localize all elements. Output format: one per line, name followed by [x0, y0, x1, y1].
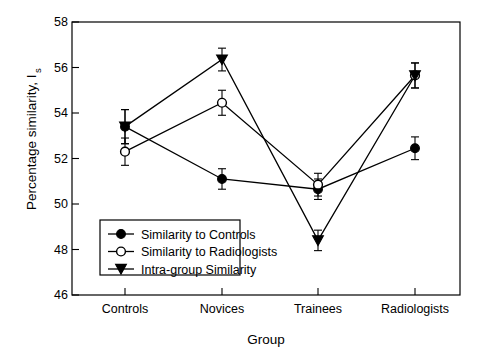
x-axis-title: Group: [247, 332, 285, 347]
y-tick-label: 58: [54, 15, 68, 29]
data-point-open-circle-1-2: [314, 180, 323, 189]
data-point-triangle-2-2: [313, 236, 324, 246]
x-tick-label-trainees: Trainees: [294, 302, 342, 316]
y-axis-title-subscript: s: [32, 68, 43, 73]
x-tick-labels: Controls Novices Trainees Radiologists: [102, 302, 449, 316]
chart-figure: Percentage similarity, I s 58 56 54 52 5…: [0, 0, 482, 360]
data-point-open-circle-1-1: [218, 98, 227, 107]
legend-label-similarity-to-controls: Similarity to Controls: [141, 228, 256, 242]
line-chart-svg: Percentage similarity, I s 58 56 54 52 5…: [0, 0, 482, 360]
x-tick-marks: [125, 288, 415, 295]
series-line-0: [125, 127, 415, 190]
data-point-open-circle-legend-1: [117, 247, 126, 256]
data-point-filled-circle-legend-0: [117, 230, 126, 239]
y-tick-marks: [72, 22, 79, 295]
y-axis-title: Percentage similarity, I s: [24, 68, 43, 210]
y-tick-label: 46: [54, 288, 68, 302]
y-tick-label: 54: [54, 106, 68, 120]
x-tick-label-novices: Novices: [200, 302, 244, 316]
y-axis-title-text: Percentage similarity, I: [24, 74, 39, 210]
y-tick-label: 52: [54, 152, 68, 166]
legend: Similarity to Controls Similarity to Rad…: [100, 220, 277, 277]
y-tick-label: 50: [54, 197, 68, 211]
x-tick-label-radiologists: Radiologists: [381, 302, 449, 316]
data-point-triangle-2-1: [217, 55, 228, 65]
y-tick-label: 56: [54, 61, 68, 75]
y-tick-labels: 58 56 54 52 50 48 46: [54, 15, 68, 302]
legend-label-intra-group-similarity: Intra-group Similarity: [141, 263, 257, 277]
x-tick-label-controls: Controls: [102, 302, 149, 316]
data-point-filled-circle-0-3: [411, 144, 420, 153]
y-tick-label: 48: [54, 243, 68, 257]
series-line-1: [125, 75, 415, 184]
data-point-filled-circle-0-1: [218, 175, 227, 184]
legend-label-similarity-to-radiologists: Similarity to Radiologists: [141, 245, 277, 259]
data-point-open-circle-1-0: [121, 147, 130, 156]
